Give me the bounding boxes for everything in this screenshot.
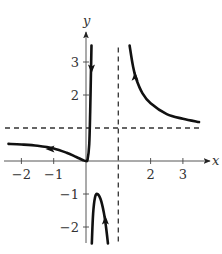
x-tick-label: −2 [12, 167, 31, 182]
axes [4, 32, 210, 243]
ticks: −2−123−2−123 [12, 55, 187, 235]
left-branch-curve [8, 46, 91, 162]
x-tick-label: 3 [179, 167, 187, 182]
y-tick-label: 3 [71, 55, 79, 70]
y-tick-label: −1 [60, 187, 79, 202]
curves [8, 46, 199, 244]
y-tick-label: 2 [71, 88, 79, 103]
function-graph: −2−123−2−123 x y [0, 0, 222, 254]
x-tick-label: −1 [44, 167, 63, 182]
x-tick-label: 2 [146, 167, 154, 182]
y-tick-label: −2 [60, 220, 79, 235]
right-branch-curve [130, 46, 199, 123]
y-axis-label: y [82, 13, 91, 28]
x-axis-label: x [212, 153, 220, 168]
